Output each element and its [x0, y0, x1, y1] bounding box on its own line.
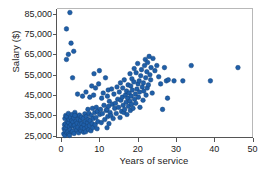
x-axis-title: Years of service — [56, 155, 252, 166]
x-tick-label: 20 — [133, 144, 143, 154]
x-tick-label: 0 — [59, 144, 64, 154]
x-axis-tick-labels: 01020304050 — [0, 0, 265, 172]
scatter-chart-figure: Salary ($) 25,00035,00045,00055,00065,00… — [0, 0, 265, 172]
x-tick-label: 50 — [247, 144, 257, 154]
x-tick-label: 40 — [209, 144, 219, 154]
x-tick-label: 30 — [171, 144, 181, 154]
x-tick-label: 10 — [94, 144, 104, 154]
